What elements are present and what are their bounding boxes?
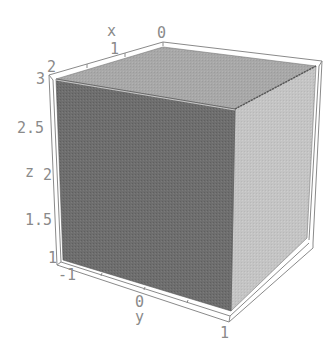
x-tick-3: 3: [36, 70, 45, 88]
cuboid: [56, 47, 316, 311]
z-tick-2-5: 2.5: [17, 119, 44, 137]
z-axis-label: z: [25, 163, 34, 181]
y-tick-neg1: -1: [58, 266, 76, 284]
x-tick-2: 2: [47, 58, 56, 76]
z-tick-2: 2: [43, 166, 52, 184]
front-face: [56, 79, 235, 311]
z-tick-1: 1: [48, 249, 57, 267]
x-tick-1: 1: [110, 40, 119, 58]
y-axis-label: y: [135, 308, 144, 326]
z-tick-1-5: 1.5: [25, 211, 52, 229]
3d-plot: x 0 1 2 3 2.5 z 2 1.5 1 -1 0 y 1: [0, 0, 335, 353]
y-tick-1: 1: [220, 324, 229, 342]
x-tick-0: 0: [157, 24, 166, 42]
x-axis-label: x: [107, 22, 116, 40]
